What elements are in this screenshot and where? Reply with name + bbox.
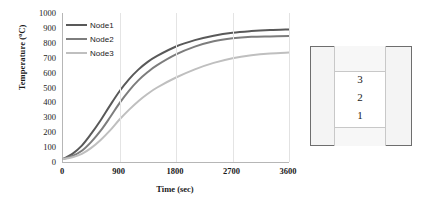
y-axis-tick-labels: 01002003004005006007008009001000	[12, 8, 56, 167]
y-tick-500: 500	[12, 83, 56, 93]
x-tick-0: 0	[42, 166, 82, 176]
gridline-x-1800	[176, 13, 177, 162]
layer-label-1: 1	[334, 109, 386, 122]
legend-swatch-node3	[66, 52, 87, 54]
legend-swatch-node2	[66, 38, 87, 40]
layer-label-3: 3	[334, 73, 386, 86]
x-tick-3600: 3600	[268, 166, 308, 176]
y-tick-600: 600	[12, 68, 56, 78]
legend-item-node2[interactable]: Node2	[66, 32, 132, 46]
y-tick-200: 200	[12, 127, 56, 137]
y-tick-1000: 1000	[12, 8, 56, 18]
y-tick-100: 100	[12, 142, 56, 152]
x-tick-2700: 2700	[212, 166, 252, 176]
layer-label-2: 2	[334, 91, 386, 104]
y-tick-900: 900	[12, 23, 56, 33]
legend-swatch-node1	[66, 24, 87, 26]
temperature-time-chart: Temperature (oC) 01002003004005006007008…	[0, 0, 300, 212]
legend-label-node3: Node3	[90, 49, 114, 58]
x-axis-title: Time (sec)	[62, 184, 288, 194]
y-tick-300: 300	[12, 112, 56, 122]
y-tick-700: 700	[12, 53, 56, 63]
chart-legend: Node1Node2Node3	[66, 16, 132, 63]
x-axis-tick-labels: 0900180027003600	[62, 166, 288, 178]
y-tick-800: 800	[12, 38, 56, 48]
x-tick-900: 900	[99, 166, 139, 176]
legend-label-node1: Node1	[90, 21, 114, 30]
legend-item-node3[interactable]: Node3	[66, 46, 132, 60]
legend-label-node2: Node2	[90, 35, 114, 44]
y-tick-400: 400	[12, 97, 56, 107]
x-tick-1800: 1800	[155, 166, 195, 176]
legend-item-node1[interactable]: Node1	[66, 18, 132, 32]
cross-section-diagram: 3 2 1	[310, 46, 412, 146]
gridline-x-2700	[233, 13, 234, 162]
